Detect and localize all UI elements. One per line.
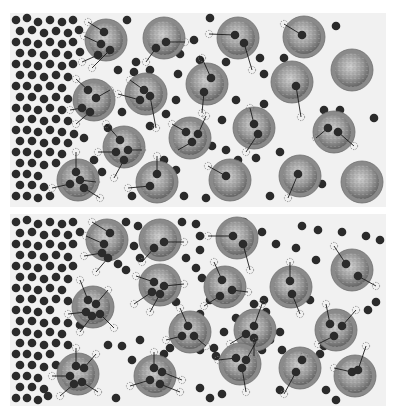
adsorbed-particle xyxy=(106,229,115,238)
free-particle xyxy=(28,115,37,124)
free-particle xyxy=(104,341,113,350)
free-particle xyxy=(58,18,67,27)
sphere-texture xyxy=(335,253,369,287)
free-particle xyxy=(69,218,78,227)
adsorbed-particle xyxy=(232,354,241,363)
free-particle xyxy=(52,137,61,146)
free-particle xyxy=(260,296,269,305)
free-particle xyxy=(34,220,43,229)
adsorbed-particle xyxy=(150,244,159,253)
free-particle xyxy=(362,232,371,241)
free-particle xyxy=(23,148,32,157)
free-particle xyxy=(28,159,37,168)
free-particle xyxy=(34,128,43,137)
free-particle xyxy=(46,240,55,249)
adsorbed-particle xyxy=(354,366,363,375)
free-particle xyxy=(23,192,32,201)
free-particle xyxy=(23,240,32,249)
free-particle xyxy=(34,62,43,71)
free-particle xyxy=(34,374,43,383)
free-particle xyxy=(12,306,21,315)
free-particle xyxy=(364,306,373,315)
free-particle xyxy=(69,240,78,249)
free-particle xyxy=(28,93,37,102)
porous-sphere xyxy=(216,217,258,259)
adsorbed-particle xyxy=(136,96,145,105)
free-particle xyxy=(75,26,84,35)
free-particle xyxy=(16,273,25,282)
free-particle xyxy=(136,336,145,345)
free-particle xyxy=(34,84,43,93)
free-particle xyxy=(23,82,32,91)
sphere-texture xyxy=(223,347,257,381)
free-particle xyxy=(46,126,55,135)
adsorbed-particle xyxy=(120,156,129,165)
adsorbed-particle xyxy=(188,138,197,147)
free-particle xyxy=(12,60,21,69)
free-particle xyxy=(23,14,32,23)
free-particle xyxy=(266,192,275,201)
free-particle xyxy=(123,16,132,25)
porous-sphere xyxy=(85,19,127,61)
free-particle xyxy=(34,172,43,181)
free-particle xyxy=(64,253,73,262)
free-particle xyxy=(276,386,285,395)
free-particle xyxy=(40,51,49,60)
free-particle xyxy=(40,253,49,262)
free-particle xyxy=(58,84,67,93)
free-particle xyxy=(212,352,221,361)
free-particle xyxy=(58,106,67,115)
free-particle xyxy=(46,262,55,271)
free-particle xyxy=(58,242,67,251)
free-particle xyxy=(256,54,265,63)
adsorbed-particle xyxy=(324,124,333,133)
free-particle xyxy=(370,114,379,123)
free-particle xyxy=(122,266,131,275)
free-particle xyxy=(16,93,25,102)
free-particle xyxy=(64,51,73,60)
free-particle xyxy=(332,22,341,31)
free-particle xyxy=(44,392,53,401)
free-particle xyxy=(28,26,37,35)
free-particle xyxy=(64,139,73,148)
free-particle xyxy=(40,183,49,192)
free-particle xyxy=(12,350,21,359)
free-particle xyxy=(46,284,55,293)
porous-sphere xyxy=(341,161,383,203)
sphere-texture xyxy=(283,351,317,385)
free-particle xyxy=(52,115,61,124)
free-particle xyxy=(12,104,21,113)
free-particle xyxy=(132,58,141,67)
free-particle xyxy=(118,342,127,351)
adsorbed-particle xyxy=(194,130,203,139)
sphere-texture xyxy=(338,359,372,393)
free-particle xyxy=(16,317,25,326)
free-particle xyxy=(206,394,215,403)
adsorbed-particle xyxy=(330,332,339,341)
sphere-texture xyxy=(173,315,207,349)
free-particle xyxy=(34,40,43,49)
sphere-texture xyxy=(147,21,181,55)
free-particle xyxy=(112,394,121,403)
free-particle xyxy=(34,18,43,27)
free-particle xyxy=(46,148,55,157)
adsorbed-particle xyxy=(150,364,159,373)
free-particle xyxy=(312,256,321,265)
sphere-texture xyxy=(319,313,353,347)
free-particle xyxy=(23,216,32,225)
adsorbed-particle xyxy=(78,104,87,113)
free-particle xyxy=(40,341,49,350)
free-particle xyxy=(40,363,49,372)
free-particle xyxy=(338,228,347,237)
adsorbed-particle xyxy=(200,88,209,97)
adsorbed-particle xyxy=(78,378,87,387)
free-particle xyxy=(220,328,229,337)
free-particle xyxy=(23,126,32,135)
free-particle xyxy=(52,229,61,238)
free-particle xyxy=(28,339,37,348)
free-particle xyxy=(64,73,73,82)
adsorbed-particle xyxy=(80,364,89,373)
free-particle xyxy=(260,70,269,79)
free-particle xyxy=(134,222,143,231)
adsorbed-particle xyxy=(96,310,105,319)
